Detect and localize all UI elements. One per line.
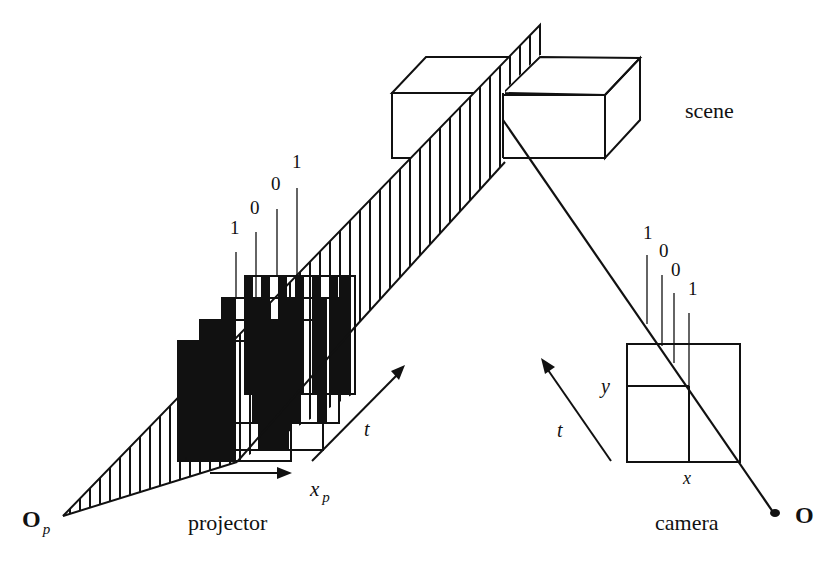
projector-time-label: t [364,418,370,440]
projector-bit-4: 1 [292,151,302,172]
camera-ray [503,120,780,517]
projector-bit-2: 0 [250,197,260,218]
camera-bit-1: 1 [643,222,653,243]
camera-y-axis-label: y [599,375,610,398]
scene-box-right [503,57,640,158]
camera-bit-2: 0 [659,240,669,261]
projector-label: projector [188,510,268,535]
projector-origin-label: Op [22,506,51,537]
projector-code-bits: 1 0 0 1 [230,151,302,238]
projector-x-axis-arrow [210,467,292,479]
camera-code-leaders [647,255,689,386]
scene-label: scene [685,98,734,123]
projector-x-axis-label: xp [309,477,330,505]
projector-bit-1: 1 [230,217,240,238]
camera-origin-label: O [795,502,814,528]
projector-bit-3: 0 [271,173,281,194]
camera-time-arrow [541,358,611,461]
camera-bit-4: 1 [688,278,698,299]
structured-light-diagram: 1 0 0 1 xp t Op projector scene 1 0 0 1 [0,0,830,561]
camera-label: camera [655,510,719,535]
camera-code-bits: 1 0 0 1 [643,222,698,299]
camera-x-axis-label: x [682,468,691,488]
camera-bit-3: 0 [671,259,681,280]
camera-image-plane [627,344,740,462]
camera-time-label: t [557,419,563,441]
